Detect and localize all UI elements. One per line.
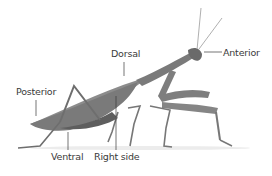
label-anterior: Anterior <box>223 47 260 58</box>
label-ventral: Ventral <box>51 151 83 162</box>
label-right-side: Right side <box>94 151 140 162</box>
label-dorsal: Dorsal <box>111 48 140 59</box>
label-posterior: Posterior <box>16 86 56 97</box>
